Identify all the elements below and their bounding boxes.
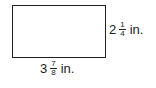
height-whole: 2 [109,22,116,37]
width-denominator: 8 [51,69,55,77]
height-unit: in. [130,22,144,37]
width-fraction: 7 8 [50,60,56,77]
rectangle-shape [12,5,106,58]
width-whole: 3 [40,61,47,76]
height-label: 2 1 4 in. [109,21,143,38]
height-denominator: 4 [120,30,124,38]
width-label: 3 7 8 in. [40,60,74,77]
height-fraction: 1 4 [119,21,125,38]
width-unit: in. [61,61,75,76]
